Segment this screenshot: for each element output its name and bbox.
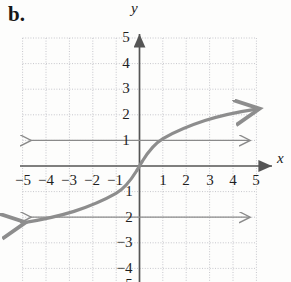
ytick-neg3: −3 [112, 234, 137, 251]
xtick-3: 3 [200, 172, 220, 189]
ytick-neg2: 2 [121, 209, 137, 226]
ytick-3: 3 [118, 80, 134, 97]
ytick-neg5: 5 [121, 276, 137, 282]
xtick-5: 5 [246, 172, 266, 189]
xtick-neg2: −2 [82, 172, 102, 189]
ytick-1: 1 [118, 132, 134, 149]
xtick-4: 4 [223, 172, 243, 189]
xtick-neg4: −4 [36, 172, 56, 189]
xtick-1: 1 [153, 172, 173, 189]
ytick-neg4: −4 [112, 260, 137, 277]
ytick-5: 5 [118, 29, 134, 46]
graph-canvas [0, 0, 291, 282]
xtick-neg3: −3 [59, 172, 79, 189]
xtick-2: 2 [176, 172, 196, 189]
y-axis-label: y [131, 0, 138, 17]
x-axis-label: x [277, 150, 284, 167]
ytick-4: 4 [118, 55, 134, 72]
ytick-neg1: 1 [121, 183, 137, 200]
xtick-neg5: −5 [13, 172, 33, 189]
ytick-2: 2 [118, 106, 134, 123]
